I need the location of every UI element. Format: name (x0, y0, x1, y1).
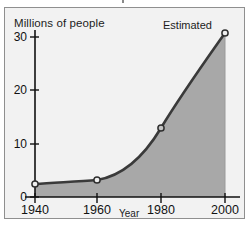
y-tick-label-0: 0 (5, 190, 27, 204)
x-tick-label-1980: 1980 (137, 203, 185, 217)
data-point-marker (32, 181, 38, 187)
y-tick-label-20: 20 (5, 83, 27, 97)
estimated-annotation: Estimated (163, 19, 212, 31)
chart-figure: Millions of people Estimated 30 20 10 0 … (0, 0, 249, 225)
data-point-marker (222, 30, 228, 36)
x-tick-label-1940: 1940 (11, 203, 59, 217)
y-axis-title: Millions of people (14, 17, 105, 29)
data-point-marker (158, 125, 164, 131)
y-tick-label-30: 30 (5, 30, 27, 44)
x-axis-title: Year (119, 208, 139, 219)
x-tick-label-1960: 1960 (73, 203, 121, 217)
y-tick-label-10: 10 (5, 137, 27, 151)
chart-plot-area (0, 0, 249, 225)
x-tick-label-2000: 2000 (201, 203, 249, 217)
data-point-marker (94, 177, 100, 183)
area-fill (35, 33, 225, 197)
